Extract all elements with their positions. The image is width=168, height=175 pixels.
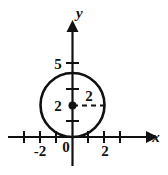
coordinate-plane-svg: x y 5 -2 2 0 2 2: [0, 0, 168, 175]
circle-graph-figure: x y 5 -2 2 0 2 2: [0, 0, 168, 175]
x-axis-group: [8, 131, 158, 143]
origin-label: 0: [62, 139, 70, 155]
y-axis-label: y: [74, 5, 83, 21]
x-axis-label: x: [151, 129, 160, 145]
radius-value-label: 2: [85, 88, 93, 104]
y-axis-arrow-icon: [67, 20, 79, 32]
y-tick-label-5: 5: [54, 56, 62, 72]
center-point-marker: [69, 102, 77, 110]
center-y-value-label: 2: [54, 98, 62, 114]
x-tick-label-2: 2: [101, 143, 109, 159]
x-tick-label-minus2: -2: [34, 143, 47, 159]
